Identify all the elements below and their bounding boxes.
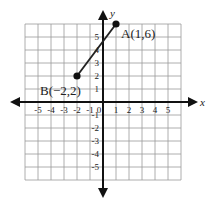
x-tick-label: -4 [47, 105, 55, 115]
y-axis-up-arrow-icon [98, 10, 108, 20]
coordinate-plane: x y -5-4-3-2-1012345 54321-1-2-3-4-5 A(1… [0, 0, 218, 204]
x-axis-label: x [199, 96, 205, 108]
x-tick-label: 2 [127, 105, 132, 115]
y-tick-label: -3 [92, 136, 100, 146]
x-tick-label: -5 [34, 105, 42, 115]
y-tick-label: -2 [92, 123, 100, 133]
x-tick-label: 4 [153, 105, 158, 115]
point-b [73, 72, 80, 79]
x-tick-label: -3 [60, 105, 68, 115]
x-tick-label: -2 [73, 105, 81, 115]
y-tick-label: 5 [95, 32, 100, 42]
point-b-label: B(−2,2) [40, 83, 81, 98]
x-axis-left-arrow-icon [10, 97, 20, 107]
y-tick-label: -4 [92, 149, 100, 159]
x-axis-right-arrow-icon [188, 97, 198, 107]
y-axis-label: y [109, 7, 115, 19]
y-tick-label: -5 [92, 162, 100, 172]
y-axis-down-arrow-icon [98, 188, 108, 198]
x-tick-label: 5 [166, 105, 171, 115]
x-tick-label: 1 [114, 105, 119, 115]
x-tick-label: 3 [140, 105, 145, 115]
point-a [112, 20, 119, 27]
y-tick-label: -1 [92, 110, 100, 120]
point-a-label: A(1,6) [121, 26, 155, 41]
y-tick-label: 3 [95, 58, 100, 68]
y-tick-label: 1 [95, 84, 100, 94]
y-tick-label: 2 [95, 71, 100, 81]
